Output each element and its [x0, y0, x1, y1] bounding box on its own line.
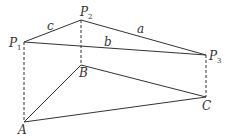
- svg-text:2: 2: [88, 13, 92, 21]
- edge-label-a: a: [137, 22, 144, 36]
- label-a-point: A: [17, 123, 27, 137]
- diagram-canvas: P 1 P 2 P 3 A B C c a b: [0, 0, 231, 140]
- label-p3: P 3: [208, 49, 221, 65]
- label-c-point: C: [202, 99, 211, 113]
- edge-b-c: [81, 65, 206, 97]
- edge-label-b: b: [104, 35, 112, 49]
- geometry-diagram: P 1 P 2 P 3 A B C c a b: [0, 0, 231, 140]
- edge-b-p1-p3: [24, 42, 206, 55]
- label-p2: P 2: [79, 5, 92, 21]
- edge-label-c: c: [47, 19, 54, 33]
- label-p1: P 1: [8, 36, 21, 52]
- label-b-point: B: [78, 66, 88, 80]
- svg-text:1: 1: [17, 44, 21, 52]
- edge-a-c: [24, 97, 206, 122]
- svg-text:3: 3: [217, 57, 221, 65]
- edge-a-b: [24, 65, 81, 122]
